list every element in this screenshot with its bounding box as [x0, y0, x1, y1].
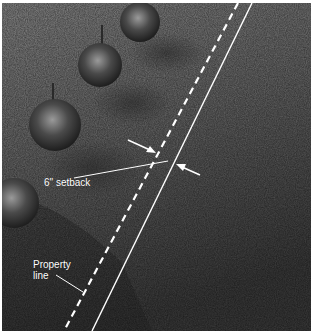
property-line-label: Property line: [33, 259, 83, 281]
photo-canvas: [2, 3, 311, 331]
setback-label: 6" setback: [44, 177, 90, 188]
lawn-photo: 6" setback Property line: [2, 3, 311, 331]
tree-1: [120, 3, 160, 42]
